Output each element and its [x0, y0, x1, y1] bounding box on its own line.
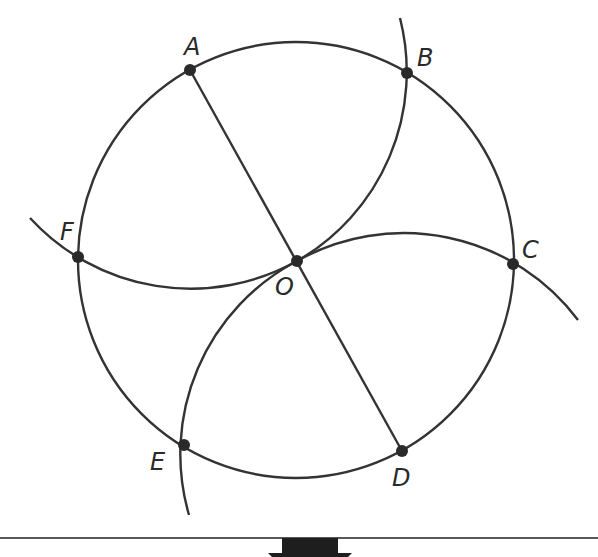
tab-flare-left — [268, 553, 282, 557]
arc-centered-a — [297, 18, 407, 261]
label-a: A — [182, 33, 200, 61]
label-d: D — [392, 464, 410, 492]
bottom-tab — [282, 538, 338, 557]
tab-flare-right — [338, 553, 352, 557]
label-c: C — [522, 236, 539, 264]
point-d — [396, 445, 408, 457]
point-b — [401, 67, 413, 79]
hexagon-construction-diagram: A B C D E F O — [0, 0, 598, 557]
point-e — [178, 439, 190, 451]
label-b: B — [417, 44, 433, 72]
point-f — [72, 251, 84, 263]
label-f: F — [60, 218, 75, 246]
point-a — [184, 64, 196, 76]
label-e: E — [150, 448, 166, 476]
label-o: O — [275, 273, 294, 301]
point-o — [291, 255, 303, 267]
point-c — [507, 258, 519, 270]
